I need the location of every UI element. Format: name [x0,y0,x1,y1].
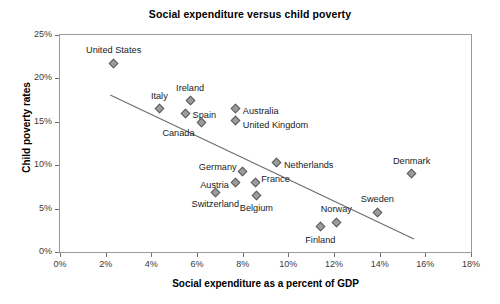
x-tick-label: 18% [451,259,491,269]
x-tick-label: 14% [360,259,400,269]
data-point-label: Finland [305,235,335,245]
x-tick-label: 12% [314,259,354,269]
y-tick-label: 10% [12,159,52,169]
x-tick-label: 16% [405,259,445,269]
data-point-label: Spain [193,110,217,120]
x-tick-label: 4% [131,259,171,269]
chart-title: Social expenditure versus child poverty [0,8,500,20]
data-point-label: Canada [162,128,194,138]
y-tick-label: 15% [12,116,52,126]
data-point-label: United States [86,45,141,55]
chart-figure: Social expenditure versus child poverty … [0,0,500,304]
y-tick-label: 5% [12,203,52,213]
x-tick-label: 2% [86,259,126,269]
y-tick-label: 25% [12,29,52,39]
y-tick-label: 20% [12,72,52,82]
data-point-label: France [261,174,290,184]
plot-area: United StatesItalyIrelandSpainCanadaAust… [59,34,472,253]
x-tick-label: 8% [223,259,263,269]
data-point-label: Switzerland [192,199,240,209]
data-point-label: United Kingdom [243,120,308,130]
trend-line-svg [60,35,471,252]
x-tick-mark [471,253,472,257]
data-point-label: Australia [243,106,279,116]
x-tick-label: 0% [40,259,80,269]
data-point-label: Italy [151,91,168,101]
x-tick-label: 10% [268,259,308,269]
x-tick-label: 6% [177,259,217,269]
data-point-label: Ireland [176,83,204,93]
data-point-label: Belgium [240,203,273,213]
data-point-label: Sweden [361,194,394,204]
data-point-label: Germany [199,162,237,172]
x-axis-title: Social expenditure as a percent of GDP [59,278,472,289]
data-point-label: Netherlands [284,160,334,170]
y-tick-label: 0% [12,246,52,256]
trend-line [110,95,414,239]
data-point-label: Denmark [393,156,430,166]
data-point-label: Norway [321,204,352,214]
